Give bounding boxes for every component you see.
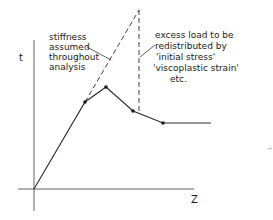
scan-artifact <box>267 148 272 149</box>
stiffness-annotation-line-3: throughout <box>49 52 100 62</box>
excess-annotation-line-3: 'initial stress' <box>156 52 215 62</box>
stiffness-annotation-line-4: analysis <box>49 62 86 72</box>
load-displacement-diagram: t Z stiffness assumed throughout analysi… <box>0 0 273 220</box>
stiffness-annotation-line-1: stiffness <box>49 32 87 42</box>
response-curve <box>34 87 211 189</box>
stiffness-annotation-line-2: assumed <box>49 42 90 52</box>
y-axis-label: t <box>19 52 23 63</box>
excess-annotation-line-4: 'viscoplastic strain' <box>153 63 239 73</box>
excess-annotation-line-2: redistributed by <box>155 41 227 51</box>
excess-annotation-line-1: excess load to be <box>155 30 234 40</box>
curve-point-3 <box>131 109 135 113</box>
excess-leader-line <box>140 45 155 57</box>
excess-annotation-line-5: etc. <box>170 74 187 84</box>
curve-point-2 <box>104 85 108 89</box>
excess-load-annotation: excess load to be redistributed by 'init… <box>153 30 239 84</box>
curve-point-4 <box>161 121 165 125</box>
stiffness-annotation: stiffness assumed throughout analysis <box>49 32 100 72</box>
x-axis-label: Z <box>191 194 198 205</box>
